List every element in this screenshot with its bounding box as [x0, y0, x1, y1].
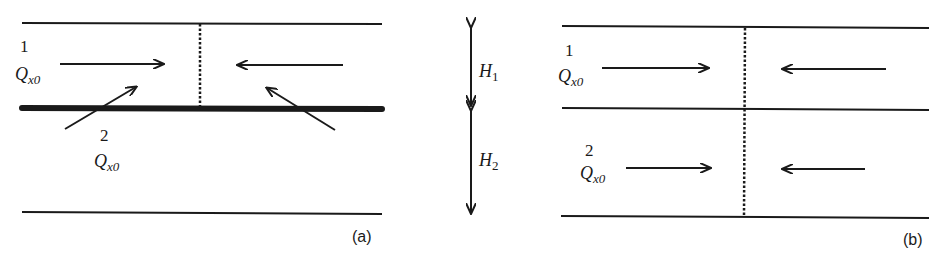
- layer-2-label: 2: [100, 126, 109, 145]
- layer-2-flux-label: Qx0: [580, 163, 606, 186]
- bottom-boundary-line: [561, 216, 929, 218]
- divide-dotted-line: [744, 28, 745, 216]
- layer-2-flux-label: Qx0: [94, 151, 120, 174]
- aquitard-thick-line: [22, 108, 382, 109]
- aquifer-diagram: 1 Qx0 2 Qx0 (a) H1 H2 1 Qx0 2 Qx0 (b): [0, 0, 945, 265]
- layer-1-flux-label: Qx0: [15, 64, 41, 87]
- panel-a-caption: (a): [352, 228, 372, 245]
- layer-2-label: 2: [585, 141, 594, 160]
- panel-b: 1 Qx0 2 Qx0 (b): [558, 26, 929, 248]
- panel-b-caption: (b): [903, 231, 923, 248]
- layer-1-label: 1: [20, 37, 29, 56]
- panel-a: 1 Qx0 2 Qx0 (a): [15, 23, 382, 245]
- top-boundary-line: [562, 26, 929, 28]
- layer-1-flux-label: Qx0: [558, 66, 584, 89]
- thickness-indicator: H1 H2: [471, 27, 499, 213]
- layer-1-label: 1: [565, 41, 574, 60]
- top-boundary-line: [22, 23, 382, 24]
- h1-label: H1: [478, 61, 499, 84]
- bottom-boundary-line: [22, 212, 382, 214]
- h2-label: H2: [478, 150, 499, 173]
